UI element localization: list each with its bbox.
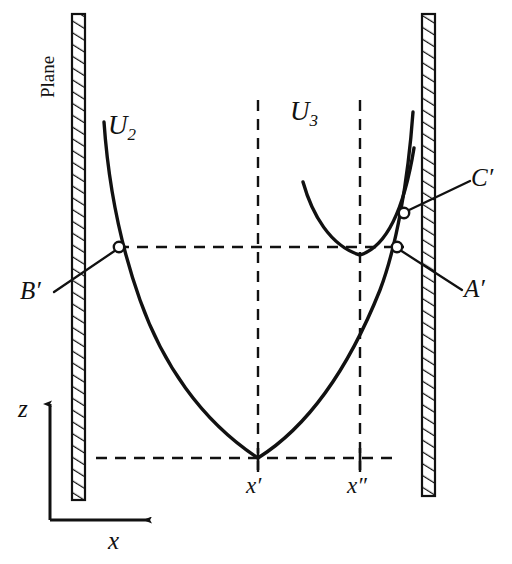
marker-b-prime xyxy=(114,242,124,252)
tick-label-x-double-prime: x″ xyxy=(347,474,367,497)
axis-label-x: x xyxy=(108,528,119,553)
point-label-b-prime: B′ xyxy=(20,278,41,303)
leader-line-c-prime xyxy=(407,181,470,211)
curve-label-u3-subscript: 3 xyxy=(310,111,319,130)
curve-label-u2-subscript: 2 xyxy=(128,125,137,144)
dashed-guide-lines xyxy=(96,100,404,478)
marker-a-prime xyxy=(392,242,402,252)
point-markers xyxy=(114,208,409,252)
leader-lines xyxy=(54,181,470,292)
curve-u3 xyxy=(303,148,414,255)
point-label-c-prime: C′ xyxy=(471,165,493,190)
curve-label-u3-letter: U xyxy=(290,96,310,126)
coordinate-axes xyxy=(50,404,150,520)
right-plane-wall xyxy=(422,14,435,496)
marker-c-prime xyxy=(399,208,409,218)
left-plane-wall xyxy=(72,14,85,500)
plane-label: Plane xyxy=(38,56,57,98)
curve-label-u3: U3 xyxy=(290,98,318,129)
point-label-a-prime: A′ xyxy=(464,276,485,301)
axis-label-z: z xyxy=(18,396,28,421)
curve-label-u2-letter: U xyxy=(108,110,128,140)
potential-energy-diagram: Plane U2 U3 B′ C′ A′ x′ x″ z x xyxy=(0,0,512,564)
tick-label-x-prime: x′ xyxy=(246,474,261,497)
curve-label-u2: U2 xyxy=(108,112,136,143)
